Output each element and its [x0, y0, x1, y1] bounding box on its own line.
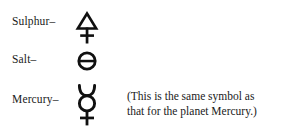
- mercury-note-line-2: that for the planet Mercury.): [127, 104, 287, 119]
- mercury-note: (This is the same symbol as that for the…: [127, 89, 287, 119]
- row-label-sulphur: Sulphur–: [12, 15, 74, 27]
- mercury-note-line-1: (This is the same symbol as: [127, 89, 287, 104]
- row-label-salt: Salt–: [12, 53, 74, 65]
- alchemical-symbol-salt: [74, 50, 100, 72]
- row-label-mercury: Mercury–: [12, 93, 74, 105]
- alchemical-symbol-mercury: [74, 83, 100, 127]
- figure-alchemical-symbols: Sulphur– Salt– Mercury–: [0, 0, 287, 132]
- alchemical-symbol-sulphur: [74, 11, 100, 45]
